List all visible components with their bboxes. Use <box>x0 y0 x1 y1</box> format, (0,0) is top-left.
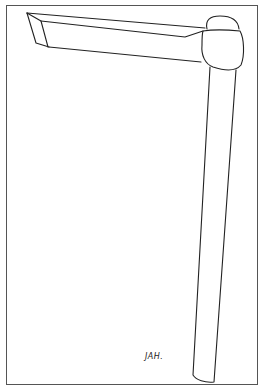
handle-shaft <box>193 67 236 382</box>
handle-head <box>202 16 244 70</box>
blade <box>27 13 205 62</box>
signature: JAH. <box>145 352 163 361</box>
tool-sketch <box>0 0 263 391</box>
